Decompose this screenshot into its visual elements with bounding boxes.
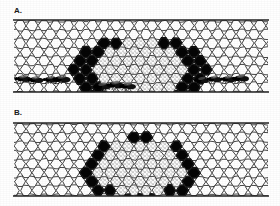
panel-a: A. <box>0 0 280 103</box>
panel-b: B. <box>0 103 280 206</box>
comb-cells <box>2 16 280 102</box>
panel-a-label: A. <box>14 6 22 15</box>
panel-b-comb-drawing <box>0 119 280 206</box>
comb-cells <box>2 119 280 205</box>
panel-a-comb-drawing <box>0 16 280 103</box>
comb-figure: A. B. <box>0 0 280 206</box>
panel-b-label: B. <box>14 108 22 117</box>
